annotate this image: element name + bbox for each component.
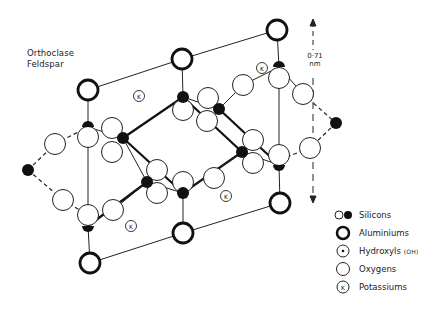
- oxygen-atom: [45, 134, 66, 155]
- silicon-atom: [330, 117, 342, 129]
- legend-label: Silicons: [359, 210, 391, 220]
- oxygen-atom: [53, 190, 74, 211]
- legend-item-aluminiums: Aluminiums: [333, 224, 419, 242]
- title-line-2: Feldspar: [27, 59, 74, 70]
- aluminium-atom: [172, 49, 192, 69]
- oxygen-atom: [300, 138, 321, 159]
- legend-item-potassiums: K Potassiums: [333, 278, 419, 296]
- oxygen-atom: [233, 75, 254, 96]
- potassium-atom: K: [221, 191, 232, 202]
- scale-arrow: [310, 19, 316, 203]
- legend-item-silicons: Silicons: [333, 206, 419, 224]
- potassium-atom: K: [126, 221, 137, 232]
- scale-label: 0·71 nm: [304, 52, 326, 68]
- legend-label: Oxygens: [359, 264, 396, 274]
- legend: Silicons Aluminiums Hydroxyls (OH) Oxyge…: [333, 206, 419, 296]
- oxygen-atom: [78, 205, 99, 226]
- silicon-legend-icon: [333, 207, 359, 223]
- potassium-legend-icon: K: [333, 279, 359, 295]
- potassium-atom: K: [134, 91, 145, 102]
- silicon-atom: [82, 121, 94, 127]
- silicon-atom: [273, 165, 285, 171]
- oxygen-legend-icon: [333, 261, 359, 277]
- oxygen-atom: [293, 84, 314, 105]
- aluminium-legend-icon: [333, 225, 359, 241]
- legend-item-oxygens: Oxygens: [333, 260, 419, 278]
- legend-label: Aluminiums: [359, 228, 409, 238]
- oxygen-atom: [204, 168, 225, 189]
- aluminium-atom: [80, 253, 100, 273]
- silicon-atom: [141, 176, 153, 188]
- potassium-atom: K: [257, 63, 268, 74]
- orthoclase-feldspar-diagram: K K K K Orthoclase Feldspar 0·71 nm: [0, 0, 446, 310]
- legend-label: Potassiums: [359, 282, 407, 292]
- silicon-atom: [117, 132, 129, 144]
- silicon-atom: [236, 146, 248, 158]
- scale-unit: nm: [304, 60, 326, 68]
- silicon-atom: [213, 103, 225, 115]
- hydroxyl-legend-icon: [333, 243, 359, 259]
- aluminium-atom: [270, 193, 290, 213]
- oxygen-atom: [78, 127, 99, 148]
- silicon-atom: [273, 61, 285, 67]
- oxygen-atom: [269, 68, 290, 89]
- title-line-1: Orthoclase: [27, 48, 74, 59]
- diagram-title: Orthoclase Feldspar: [27, 48, 74, 70]
- scale-value: 0·71: [304, 52, 326, 60]
- oxygen-atom: [103, 200, 124, 221]
- oxygen-atom: [269, 145, 290, 166]
- aluminium-atom: [173, 223, 193, 243]
- oxygen-atom: [197, 111, 218, 132]
- oxygen-atom: [102, 142, 123, 163]
- silicon-atom: [177, 187, 189, 199]
- legend-label: Hydroxyls (OH): [359, 246, 419, 256]
- silicon-atom: [82, 226, 94, 232]
- silicon-atom: [177, 91, 189, 103]
- aluminium-atom: [78, 80, 98, 100]
- legend-item-hydroxyls: Hydroxyls (OH): [333, 242, 419, 260]
- aluminium-atom: [267, 20, 287, 40]
- silicon-atom: [22, 164, 34, 176]
